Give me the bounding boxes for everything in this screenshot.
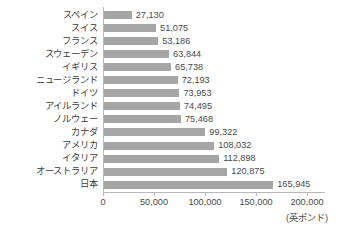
bar-value-label: 72,193: [182, 74, 210, 87]
bar-row: ドイツ73,953: [0, 87, 359, 100]
category-label: アメリカ: [0, 139, 98, 152]
bar-row: カナダ99,322: [0, 126, 359, 139]
x-axis-tick: [256, 192, 257, 196]
bar-row: イタリア112,898: [0, 152, 359, 165]
bar-value-label: 73,953: [183, 87, 211, 100]
bar-row: オーストラリア120,875: [0, 165, 359, 178]
bar-value-label: 53,186: [162, 35, 190, 48]
bar: [104, 142, 214, 150]
category-label: カナダ: [0, 126, 98, 139]
bar: [104, 37, 158, 45]
plot-area: スペイン27,130スイス51,075フランス53,186スウェーデン63,84…: [0, 0, 359, 233]
bar-value-label: 63,844: [173, 48, 201, 61]
category-label: スペイン: [0, 9, 98, 22]
category-label: アイルランド: [0, 100, 98, 113]
x-axis-tick: [205, 192, 206, 196]
bar-value-label: 120,875: [231, 165, 264, 178]
bar: [104, 115, 181, 123]
category-label: オーストラリア: [0, 165, 98, 178]
x-axis-unit-label: (英ポンド): [286, 210, 328, 224]
bar-row: アイルランド74,495: [0, 100, 359, 113]
bar: [104, 76, 178, 84]
bar: [104, 89, 179, 97]
bar-value-label: 112,898: [223, 152, 256, 165]
bar-value-label: 65,738: [175, 61, 203, 74]
bar: [104, 24, 156, 32]
bar-row: スイス51,075: [0, 22, 359, 35]
bar-value-label: 75,468: [185, 113, 213, 126]
bar-value-label: 51,075: [160, 22, 188, 35]
bar-row: フランス53,186: [0, 35, 359, 48]
bar-value-label: 27,130: [136, 9, 164, 22]
bar-row: スペイン27,130: [0, 9, 359, 22]
bar: [104, 168, 227, 176]
x-axis-tick-label: 0: [100, 197, 105, 207]
bar-value-label: 108,032: [218, 139, 251, 152]
bar-row: ノルウェー75,468: [0, 113, 359, 126]
bar-chart: スペイン27,130スイス51,075フランス53,186スウェーデン63,84…: [0, 0, 359, 233]
category-label: 日本: [0, 178, 98, 191]
bar: [104, 63, 171, 71]
bar-row: 日本165,945: [0, 178, 359, 191]
category-label: ドイツ: [0, 87, 98, 100]
category-label: フランス: [0, 35, 98, 48]
bar-value-label: 99,322: [209, 126, 237, 139]
category-label: イタリア: [0, 152, 98, 165]
bar-value-label: 165,945: [277, 178, 310, 191]
x-axis-tick: [103, 192, 104, 196]
x-axis-tick-label: 150,000: [239, 197, 272, 207]
bar: [104, 50, 169, 58]
category-label: ニュージランド: [0, 74, 98, 87]
x-axis-tick-label: 200,000: [290, 197, 323, 207]
x-axis-line: [103, 192, 325, 193]
bar: [104, 102, 180, 110]
x-axis-tick-label: 50,000: [140, 197, 168, 207]
bar: [104, 181, 273, 189]
bar-row: ニュージランド72,193: [0, 74, 359, 87]
bar: [104, 11, 132, 19]
bar: [104, 128, 205, 136]
category-label: スウェーデン: [0, 48, 98, 61]
category-label: スイス: [0, 22, 98, 35]
bar-row: イギリス65,738: [0, 61, 359, 74]
category-label: イギリス: [0, 61, 98, 74]
bar-row: アメリカ108,032: [0, 139, 359, 152]
bar: [104, 155, 219, 163]
bar-value-label: 74,495: [184, 100, 212, 113]
bar-row: スウェーデン63,844: [0, 48, 359, 61]
x-axis-tick: [154, 192, 155, 196]
x-axis-tick: [307, 192, 308, 196]
category-label: ノルウェー: [0, 113, 98, 126]
x-axis-tick-label: 100,000: [188, 197, 221, 207]
